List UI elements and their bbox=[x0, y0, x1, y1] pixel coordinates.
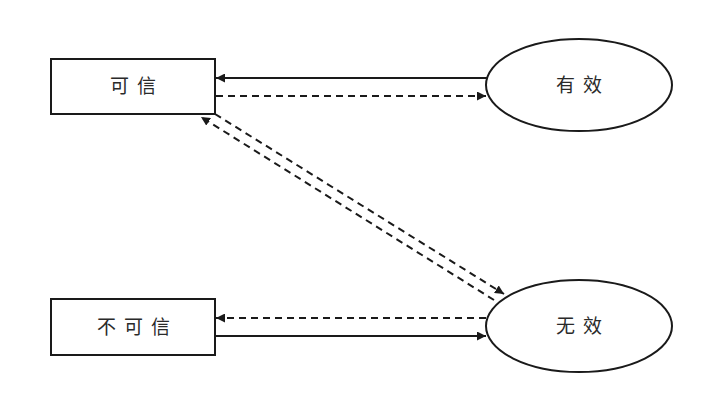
node-valid-label: 有效 bbox=[556, 74, 610, 96]
edge-invalid-to-credible bbox=[201, 117, 494, 300]
node-credible: 可信 bbox=[51, 59, 215, 114]
node-invalid-label: 无效 bbox=[556, 315, 610, 337]
state-diagram: 可信 有效 不可信 无效 bbox=[0, 0, 712, 400]
node-not-credible: 不可信 bbox=[51, 299, 215, 355]
node-credible-label: 可信 bbox=[110, 75, 164, 97]
node-invalid: 无效 bbox=[486, 280, 672, 372]
node-valid: 有效 bbox=[486, 39, 672, 131]
node-not-credible-label: 不可信 bbox=[97, 316, 178, 338]
edge-credible-to-invalid bbox=[215, 114, 504, 294]
